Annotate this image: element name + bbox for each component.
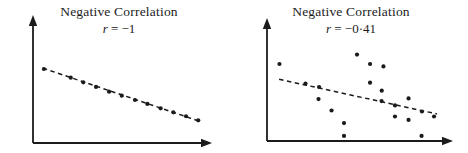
data-point bbox=[42, 67, 46, 71]
data-point bbox=[355, 52, 359, 56]
data-point bbox=[184, 114, 188, 118]
scatter-panel-moderate-negative: Negative Correlation r = −0·41 bbox=[234, 0, 468, 153]
data-point bbox=[120, 94, 124, 98]
data-point bbox=[420, 109, 424, 113]
data-point bbox=[381, 64, 385, 68]
data-point bbox=[406, 96, 410, 100]
data-point bbox=[94, 85, 98, 89]
data-point bbox=[316, 97, 320, 101]
scatter-plot-r-neg-1 bbox=[0, 0, 234, 153]
data-point bbox=[342, 134, 346, 138]
data-point bbox=[379, 99, 383, 103]
data-point bbox=[196, 118, 200, 122]
data-point bbox=[380, 89, 384, 93]
data-point bbox=[368, 81, 372, 85]
x-axis-arrowhead-icon bbox=[442, 137, 453, 145]
scatter-plot-r-neg-0-41 bbox=[234, 0, 468, 153]
data-point bbox=[368, 62, 372, 66]
y-axis-arrowhead-icon bbox=[263, 18, 271, 29]
trend-line bbox=[279, 79, 437, 114]
scatter-panel-perfect-negative: Negative Correlation r = −1 bbox=[0, 0, 234, 153]
data-point bbox=[171, 110, 175, 114]
data-point bbox=[329, 108, 333, 112]
data-point bbox=[419, 134, 423, 138]
data-point bbox=[317, 85, 321, 89]
data-point bbox=[342, 121, 346, 125]
data-point bbox=[69, 76, 73, 80]
data-point bbox=[107, 90, 111, 94]
data-point bbox=[406, 118, 410, 122]
data-point bbox=[145, 102, 149, 106]
data-point bbox=[133, 98, 137, 102]
data-point bbox=[393, 103, 397, 107]
x-axis-arrowhead-icon bbox=[201, 139, 212, 147]
data-point bbox=[393, 114, 397, 118]
data-point bbox=[277, 62, 281, 66]
data-point bbox=[303, 81, 307, 85]
negative-correlation-figure: Negative Correlation r = −1 Negative Cor… bbox=[0, 0, 468, 153]
data-point bbox=[432, 114, 436, 118]
y-axis-arrowhead-icon bbox=[29, 15, 37, 26]
data-point bbox=[81, 80, 85, 84]
data-point bbox=[159, 106, 163, 110]
